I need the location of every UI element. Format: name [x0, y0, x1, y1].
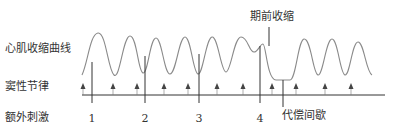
extra-stimulus-label: 额外刺激 [5, 112, 49, 123]
sinus-arrow-icon [186, 83, 191, 89]
sinus-arrow-icon [323, 83, 328, 89]
sinus-arrow-icon [349, 83, 354, 89]
premature-contraction-label: 期前收缩 [250, 11, 294, 22]
stimulus-lines [92, 46, 260, 103]
sinus-arrow-icon [135, 83, 140, 89]
contraction-curve [82, 33, 372, 80]
sinus-arrow-icon [111, 83, 116, 89]
sinus-arrow-icon [270, 83, 275, 89]
sinus-rhythm-arrows [81, 83, 354, 95]
sinus-arrow-icon [162, 83, 167, 89]
sinus-rhythm-label: 窦性节律 [5, 81, 49, 92]
sinus-arrow-icon [215, 83, 220, 89]
stimulus-number-1: 1 [89, 113, 96, 124]
sinus-arrow-icon [81, 83, 86, 89]
stimulus-number-3: 3 [196, 113, 203, 124]
stimulus-number-4: 4 [257, 113, 264, 124]
sinus-arrow-icon [294, 83, 299, 89]
sinus-arrow-icon [241, 83, 246, 89]
contraction-curve-label: 心肌收缩曲线 [5, 43, 71, 54]
stimulus-number-2: 2 [142, 113, 149, 124]
compensatory-pause-label: 代偿间歇 [282, 110, 326, 121]
